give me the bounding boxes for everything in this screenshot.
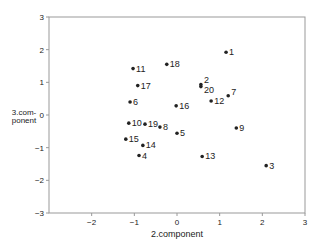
data-point-13	[200, 155, 204, 159]
scatter-chart: −3−2−10123 −2−10123 12345678910111213141…	[0, 0, 325, 243]
point-label-15: 15	[129, 134, 139, 144]
point-label-8: 8	[163, 122, 168, 132]
data-point-11	[131, 67, 135, 71]
point-label-19: 19	[148, 119, 158, 129]
point-label-1: 1	[229, 47, 234, 57]
y-tick-label: 0	[40, 111, 45, 120]
y-tick-label: −2	[35, 176, 45, 185]
plot-frame	[49, 17, 305, 213]
plot-border	[49, 17, 305, 213]
data-point-15	[124, 137, 128, 141]
x-tick-label: 2	[260, 218, 265, 227]
y-tick-label: −1	[35, 144, 45, 153]
point-label-16: 16	[179, 101, 189, 111]
y-tick-label: 3	[40, 13, 45, 22]
y-axis-label-line2: ponent	[12, 116, 37, 125]
point-label-2: 2	[204, 75, 209, 85]
data-point-19	[143, 122, 147, 126]
y-axis: −3−2−10123	[35, 13, 49, 218]
point-label-9: 9	[239, 123, 244, 133]
x-tick-label: −1	[130, 218, 140, 227]
y-tick-label: −3	[35, 209, 45, 218]
x-tick-label: 0	[175, 218, 180, 227]
data-point-4	[137, 154, 141, 158]
data-point-10	[127, 121, 131, 125]
point-label-6: 6	[133, 97, 138, 107]
point-label-12: 12	[214, 96, 224, 106]
data-point-17	[136, 84, 140, 88]
point-label-14: 14	[146, 140, 156, 150]
data-point-7	[226, 94, 230, 98]
x-tick-label: 1	[217, 218, 222, 227]
point-label-4: 4	[142, 151, 147, 161]
data-point-5	[175, 131, 179, 135]
point-label-7: 7	[231, 87, 236, 97]
data-point-1	[224, 50, 228, 54]
plot-area: −3−2−10123 −2−10123 12345678910111213141…	[0, 0, 325, 243]
point-label-3: 3	[269, 161, 274, 171]
x-axis-label: 2.component	[151, 229, 204, 239]
data-point-16	[174, 104, 178, 108]
data-point-8	[158, 125, 162, 129]
point-label-17: 17	[141, 81, 151, 91]
x-axis: −2−10123	[87, 213, 308, 227]
point-label-11: 11	[136, 64, 145, 74]
data-point-9	[235, 126, 239, 130]
x-tick-label: 3	[303, 218, 308, 227]
data-point-12	[209, 99, 213, 103]
y-tick-label: 2	[40, 46, 45, 55]
data-point-3	[264, 164, 268, 168]
point-label-5: 5	[180, 128, 185, 138]
point-label-20: 20	[204, 85, 214, 95]
data-point-20	[199, 85, 203, 89]
data-points: 1234567891011121314151617181920	[124, 47, 274, 170]
point-label-10: 10	[132, 118, 142, 128]
data-point-18	[165, 63, 169, 67]
data-point-14	[141, 144, 145, 148]
data-point-6	[128, 100, 132, 104]
point-label-18: 18	[170, 59, 180, 69]
x-tick-label: −2	[87, 218, 97, 227]
y-tick-label: 1	[40, 78, 45, 87]
point-label-13: 13	[205, 151, 215, 161]
